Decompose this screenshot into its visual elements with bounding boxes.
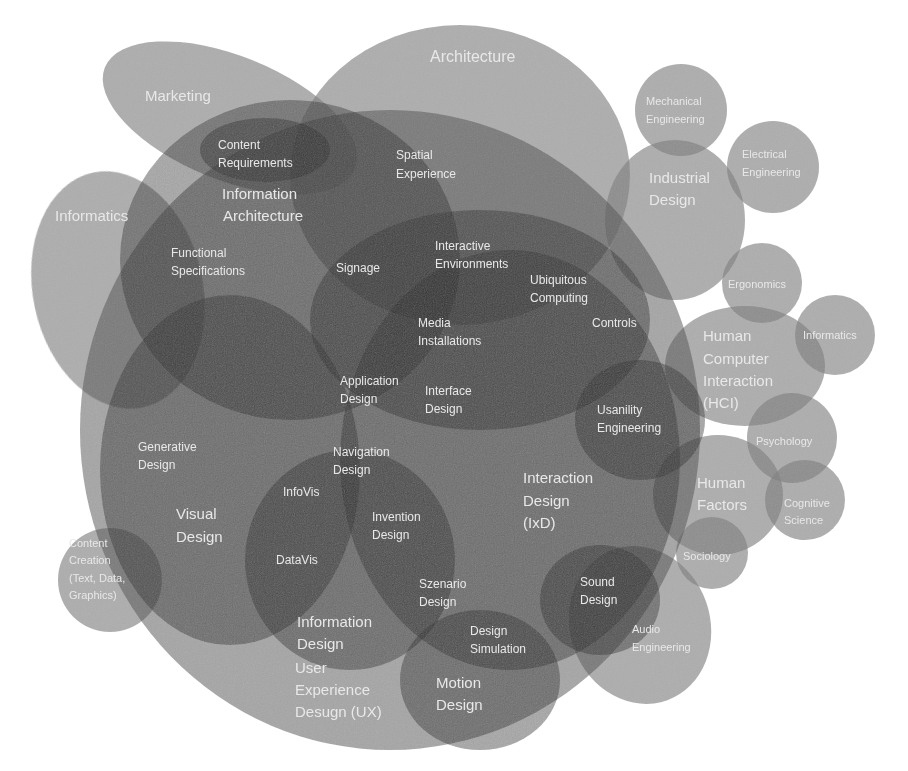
label-datavis: DataVis xyxy=(276,553,318,567)
ux-venn-diagram: Architecture Marketing Mechanical Engine… xyxy=(0,0,908,771)
label-architecture: Architecture xyxy=(430,48,515,65)
label-informatics-left: Informatics xyxy=(55,207,128,224)
label-infovis: InfoVis xyxy=(283,485,319,499)
label-signage: Signage xyxy=(336,261,380,275)
label-controls: Controls xyxy=(592,316,637,330)
label-ergonomics: Ergonomics xyxy=(728,278,787,290)
label-marketing: Marketing xyxy=(145,87,211,104)
label-informatics-right: Informatics xyxy=(803,329,857,341)
usability-engineering-shape xyxy=(575,360,705,480)
label-psychology: Psychology xyxy=(756,435,813,447)
label-sociology: Sociology xyxy=(683,550,731,562)
